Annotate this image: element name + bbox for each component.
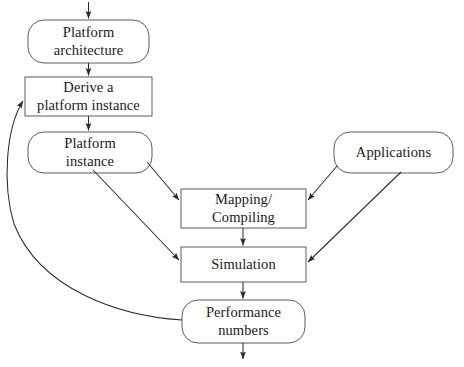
node-shape-applications — [334, 132, 453, 173]
edge-applications-to-simulation — [308, 172, 401, 262]
node-shape-mapping-compiling — [181, 189, 306, 228]
flowchart-diagram: Platform architecture Derive a platform … — [0, 0, 464, 367]
edge-applications-to-mapping — [308, 166, 337, 200]
node-shape-platform-architecture — [28, 20, 149, 63]
flowchart-canvas — [0, 0, 464, 367]
node-shape-derive-platform-instance — [25, 77, 152, 116]
edge-performance-numbers-feedback-to-derive — [7, 101, 182, 320]
edge-platform-instance-to-mapping — [147, 162, 179, 200]
node-shape-platform-instance — [28, 132, 152, 173]
edge-platform-instance-to-simulation — [93, 170, 179, 260]
node-shape-simulation — [181, 247, 306, 282]
node-shape-performance-numbers — [182, 300, 305, 343]
